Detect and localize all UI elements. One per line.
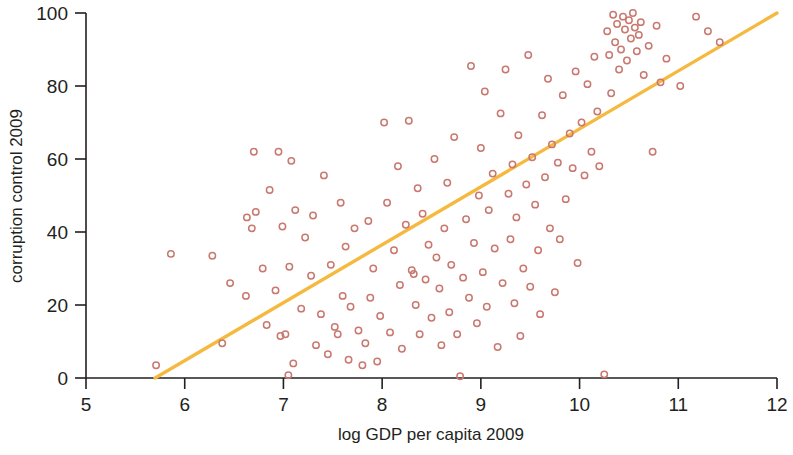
- x-tick-label-10: 10: [569, 394, 590, 415]
- data-point: [414, 185, 420, 191]
- data-point: [377, 313, 383, 319]
- data-point: [413, 302, 419, 308]
- data-point: [604, 28, 610, 34]
- data-point: [153, 362, 159, 368]
- data-point: [292, 207, 298, 213]
- data-point: [260, 265, 266, 271]
- data-point: [468, 63, 474, 69]
- data-point: [168, 251, 174, 257]
- data-point: [266, 187, 272, 193]
- data-point: [444, 180, 450, 186]
- x-tick-label-8: 8: [377, 394, 388, 415]
- data-point: [513, 214, 519, 220]
- data-point: [298, 305, 304, 311]
- data-point: [560, 92, 566, 98]
- data-point: [460, 274, 466, 280]
- data-point: [542, 174, 548, 180]
- data-point: [454, 331, 460, 337]
- data-point: [362, 340, 368, 346]
- data-point: [342, 243, 348, 249]
- data-point: [563, 196, 569, 202]
- data-point: [499, 280, 505, 286]
- data-point: [505, 190, 511, 196]
- y-tick-label-40: 40: [47, 222, 68, 243]
- data-point: [494, 344, 500, 350]
- data-point: [337, 200, 343, 206]
- data-point: [422, 276, 428, 282]
- data-point: [359, 362, 365, 368]
- data-point: [610, 12, 616, 18]
- data-point: [525, 52, 531, 58]
- data-point: [219, 340, 225, 346]
- data-point: [677, 83, 683, 89]
- data-point: [616, 66, 622, 72]
- data-point: [535, 247, 541, 253]
- data-point: [251, 149, 257, 155]
- data-point: [622, 26, 628, 32]
- data-point: [486, 207, 492, 213]
- data-point: [209, 253, 215, 259]
- plot-canvas: 56789101112 020406080100 log GDP per cap…: [0, 0, 793, 455]
- data-point: [572, 68, 578, 74]
- data-point: [653, 23, 659, 29]
- data-point: [515, 132, 521, 138]
- data-point: [584, 81, 590, 87]
- data-point: [578, 119, 584, 125]
- y-tick-label-60: 60: [47, 149, 68, 170]
- data-point: [310, 212, 316, 218]
- data-point: [645, 43, 651, 49]
- data-point: [618, 46, 624, 52]
- data-point: [663, 55, 669, 61]
- data-point: [557, 236, 563, 242]
- y-tick-label-20: 20: [47, 295, 68, 316]
- data-point: [552, 289, 558, 295]
- y-axis-ticks: 020406080100: [36, 3, 86, 389]
- data-point: [243, 293, 249, 299]
- data-point: [302, 234, 308, 240]
- data-point: [596, 163, 602, 169]
- data-point: [527, 284, 533, 290]
- data-point: [523, 181, 529, 187]
- data-point: [253, 209, 259, 215]
- x-axis-title: log GDP per capita 2009: [338, 425, 524, 444]
- data-point: [614, 21, 620, 27]
- data-point: [574, 260, 580, 266]
- data-point: [507, 236, 513, 242]
- data-point: [339, 293, 345, 299]
- data-point: [365, 218, 371, 224]
- data-point: [227, 280, 233, 286]
- data-point: [391, 247, 397, 253]
- x-axis-ticks: 56789101112: [81, 378, 788, 415]
- data-point: [272, 287, 278, 293]
- data-point: [532, 201, 538, 207]
- data-point: [641, 72, 647, 78]
- data-point: [332, 324, 338, 330]
- data-point: [290, 360, 296, 366]
- data-point: [547, 225, 553, 231]
- data-point: [347, 304, 353, 310]
- data-point: [419, 211, 425, 217]
- data-point: [425, 242, 431, 248]
- data-point: [448, 262, 454, 268]
- data-point: [537, 311, 543, 317]
- data-point: [249, 225, 255, 231]
- data-point: [628, 35, 634, 41]
- data-point: [441, 225, 447, 231]
- data-point: [395, 163, 401, 169]
- y-tick-label-0: 0: [57, 368, 68, 389]
- data-point: [433, 254, 439, 260]
- data-point: [328, 262, 334, 268]
- data-point: [370, 265, 376, 271]
- data-point: [451, 134, 457, 140]
- data-point: [569, 165, 575, 171]
- data-point: [279, 223, 285, 229]
- data-point: [606, 52, 612, 58]
- data-points: [153, 10, 723, 380]
- x-tick-label-9: 9: [476, 394, 487, 415]
- data-point: [355, 327, 361, 333]
- data-point: [608, 90, 614, 96]
- data-point: [717, 39, 723, 45]
- data-point: [588, 149, 594, 155]
- data-point: [517, 333, 523, 339]
- data-point: [313, 342, 319, 348]
